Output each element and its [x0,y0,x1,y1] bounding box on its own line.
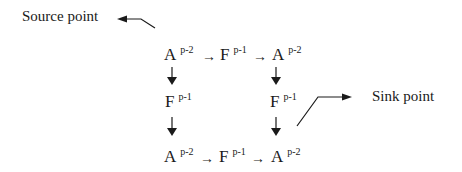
source-pointer-arrow [117,16,155,29]
sink-pointer-arrow [297,94,352,127]
left-down-arrow-1 [167,67,177,85]
right-down-arrow-1 [271,67,281,85]
right-down-arrow-2 [271,117,281,136]
left-down-arrow-2 [167,117,177,136]
diagram-connectors [0,0,462,172]
